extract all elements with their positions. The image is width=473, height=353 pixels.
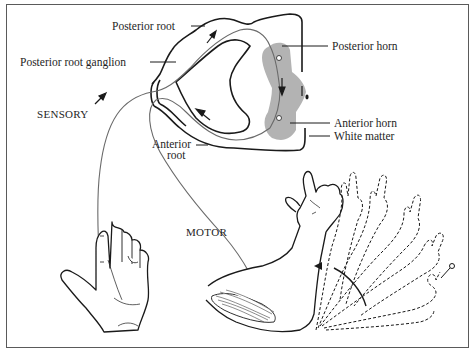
label-anterior-horn: Anterior horn bbox=[334, 117, 397, 129]
central-canal-dot bbox=[305, 95, 308, 100]
right-arm-drawing bbox=[206, 172, 343, 332]
label-motor: MOTOR bbox=[186, 226, 227, 238]
label-posterior-horn: Posterior horn bbox=[332, 40, 397, 52]
left-hand-drawing bbox=[61, 222, 149, 332]
label-posterior-root-ganglion: Posterior root ganglion bbox=[20, 56, 126, 68]
label-posterior-root: Posterior root bbox=[112, 20, 175, 32]
anterior-horn-synapse bbox=[277, 116, 282, 121]
label-anterior-root-line2: root bbox=[167, 149, 186, 161]
motor-stimulus-probe bbox=[441, 264, 455, 279]
posterior-horn-synapse bbox=[277, 56, 282, 61]
reflex-arc-illustration bbox=[0, 0, 473, 353]
label-white-matter: White matter bbox=[334, 130, 394, 142]
motion-arrow bbox=[334, 268, 366, 306]
label-sensory: SENSORY bbox=[37, 108, 89, 120]
